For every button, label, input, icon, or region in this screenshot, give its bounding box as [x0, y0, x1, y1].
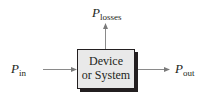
block-label-line1: Device [78, 55, 134, 68]
losses-power-label: Plosses [92, 6, 121, 21]
output-power-symbol: P [175, 61, 183, 76]
input-power-label: Pin [11, 62, 26, 77]
output-power-subscript: out [183, 68, 195, 78]
output-power-label: Pout [175, 62, 194, 77]
losses-power-symbol: P [92, 5, 100, 20]
input-power-subscript: in [19, 68, 26, 78]
block-label-line2: or System [78, 69, 134, 82]
input-power-symbol: P [11, 61, 19, 76]
device-block: Device or System [77, 49, 135, 89]
losses-power-subscript: losses [100, 12, 122, 22]
